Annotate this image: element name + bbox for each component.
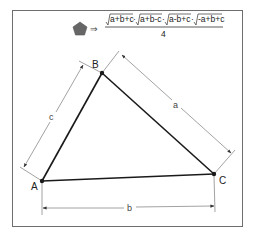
denominator: 4 [161, 29, 166, 39]
side-AB [42, 73, 102, 181]
sqrt-term-2: a+b-c [136, 14, 162, 25]
side-label-b: b [127, 203, 132, 213]
triangle-diagram: ⇒ a+b+c · a+b-c · a-b+c · -a+b+c 4 a [0, 0, 256, 237]
svg-text:a+b+c: a+b+c [110, 14, 134, 24]
side-label-a: a [173, 100, 178, 110]
side-AC [42, 174, 214, 181]
dimension-a: a [102, 51, 235, 174]
svg-text:a-b+c: a-b+c [169, 14, 191, 24]
implies-arrow: ⇒ [90, 24, 98, 34]
vertex-label-C: C [219, 175, 226, 186]
sqrt-term-1: a+b+c [106, 14, 134, 25]
vertex-B [100, 71, 104, 75]
sqrt-term-4: -a+b+c [194, 14, 225, 25]
triangle: A B C [31, 59, 226, 192]
side-label-c: c [49, 112, 54, 122]
svg-text:a+b-c: a+b-c [140, 14, 162, 24]
dimension-c: c [20, 61, 102, 181]
pentagon-icon [73, 22, 87, 35]
dot-1: · [133, 14, 136, 24]
dot-2: · [162, 14, 165, 24]
formula: ⇒ a+b+c · a+b-c · a-b+c · -a+b+c 4 [73, 14, 225, 39]
sqrt-term-3: a-b+c [165, 14, 191, 25]
vertex-label-A: A [31, 181, 38, 192]
vertex-label-B: B [92, 59, 99, 70]
dimension-b: b [42, 176, 215, 215]
vertex-A [40, 179, 44, 183]
vertex-C [212, 172, 216, 176]
dot-3: · [191, 14, 194, 24]
svg-text:-a+b+c: -a+b+c [198, 14, 225, 24]
side-BC [102, 73, 214, 174]
